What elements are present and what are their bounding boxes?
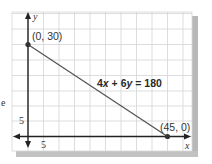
point-y-intercept (25, 42, 30, 47)
x-axis-label: x (184, 140, 190, 151)
point-label-45-0: (45, 0) (160, 121, 190, 133)
coordinate-plane: y x (0, 30) (45, 0) 4x + 6y = 180 5 5 (0, 0, 212, 164)
shadow-bottom (16, 151, 198, 157)
shadow-right (192, 16, 198, 157)
x-tick-label-5: 5 (41, 139, 46, 150)
point-label-0-30: (0, 30) (32, 30, 62, 42)
cropped-page-glyph: e (1, 97, 5, 108)
equation-label: 4x + 6y = 180 (97, 77, 162, 89)
y-tick-label-5: 5 (19, 115, 24, 126)
y-axis-label: y (32, 11, 38, 22)
point-x-intercept (165, 134, 170, 139)
graph-figure: e (0, 0, 212, 164)
